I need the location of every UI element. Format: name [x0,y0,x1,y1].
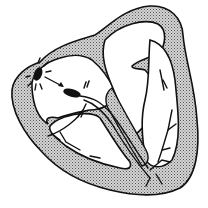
heart-conduction-diagram [0,0,208,208]
